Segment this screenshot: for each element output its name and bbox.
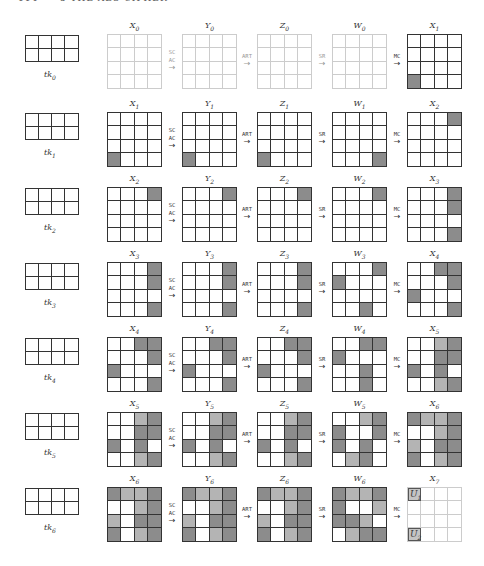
active-cell-dark — [223, 528, 236, 541]
inactive-cell — [258, 126, 271, 139]
inactive-cell — [148, 365, 161, 378]
inactive-cell — [258, 215, 271, 228]
inactive-cell — [108, 126, 121, 139]
op-label: SC — [162, 351, 182, 359]
inactive-cell — [360, 263, 373, 276]
inactive-cell — [373, 48, 386, 61]
active-cell-dark — [258, 528, 271, 541]
active-cell-light — [360, 515, 373, 528]
tweakey-label: tk1 — [44, 148, 56, 159]
inactive-cell — [346, 276, 359, 289]
op-label: SC — [162, 126, 182, 134]
inactive-cell — [258, 188, 271, 201]
inactive-cell — [258, 62, 271, 75]
inactive-cell — [121, 126, 134, 139]
inactive-cell — [258, 113, 271, 126]
tweakey-cell — [26, 502, 39, 515]
inactive-cell — [148, 215, 161, 228]
inactive-cell — [346, 153, 359, 166]
state-grid-w1 — [332, 112, 387, 167]
inactive-cell — [285, 140, 298, 153]
state-grid-z5 — [257, 412, 312, 467]
active-cell-light — [135, 413, 148, 426]
inactive-cell — [421, 48, 434, 61]
right-arrow-icon: → — [237, 213, 257, 221]
state-label: Z2 — [257, 174, 312, 185]
inactive-cell — [210, 75, 223, 88]
inactive-cell — [421, 62, 434, 75]
label-base: tk — [44, 70, 52, 79]
inactive-cell — [421, 365, 434, 378]
tweakey-cell — [65, 189, 78, 202]
state-grid-x0 — [107, 34, 162, 89]
inactive-cell — [108, 338, 121, 351]
inactive-cell — [333, 290, 346, 303]
tweakey-label: tk2 — [44, 223, 56, 234]
tweakey-grid — [25, 338, 79, 365]
inactive-cell — [421, 201, 434, 214]
active-cell-dark — [135, 515, 148, 528]
active-cell-dark — [148, 453, 161, 466]
active-cell-light — [285, 501, 298, 514]
inactive-cell — [258, 263, 271, 276]
round-row-0: tk0X0Y0Z0W0X1SCAC→ART→SR→MC→ — [0, 34, 484, 104]
tweakey-cell — [52, 277, 65, 290]
tweakey-cell — [65, 414, 78, 427]
label-subscript: 1 — [285, 103, 289, 110]
inactive-cell — [448, 126, 461, 139]
inactive-cell — [271, 215, 284, 228]
op-label: SC — [162, 48, 182, 56]
inactive-cell — [448, 528, 461, 541]
active-cell-dark — [448, 378, 461, 391]
state-label: X6 — [107, 474, 162, 485]
active-cell-dark — [148, 413, 161, 426]
inactive-cell — [408, 215, 421, 228]
inactive-cell — [408, 263, 421, 276]
tweakey-cell — [52, 352, 65, 365]
active-cell-light — [435, 453, 448, 466]
inactive-cell — [183, 113, 196, 126]
inactive-cell — [183, 501, 196, 514]
label-base: W — [353, 474, 361, 483]
inactive-cell — [421, 188, 434, 201]
inactive-cell — [148, 290, 161, 303]
right-arrow-icon: → — [162, 64, 182, 72]
inactive-cell — [448, 515, 461, 528]
active-cell-light — [196, 488, 209, 501]
inactive-cell — [210, 62, 223, 75]
inactive-cell — [271, 75, 284, 88]
inactive-cell — [435, 303, 448, 316]
inactive-cell — [223, 62, 236, 75]
inactive-cell — [108, 453, 121, 466]
inactive-cell — [121, 351, 134, 364]
active-cell-light — [183, 515, 196, 528]
label-subscript: 6 — [362, 478, 366, 485]
inactive-cell — [271, 126, 284, 139]
tweakey-label: tk5 — [44, 448, 56, 459]
inactive-cell — [271, 35, 284, 48]
inactive-cell — [210, 153, 223, 166]
active-cell-dark — [148, 528, 161, 541]
active-cell-dark — [448, 426, 461, 439]
inactive-cell — [435, 488, 448, 501]
inactive-cell — [298, 75, 311, 88]
active-cell-dark — [373, 263, 386, 276]
state-grid-x2 — [107, 187, 162, 242]
inactive-cell — [258, 35, 271, 48]
inactive-cell — [360, 188, 373, 201]
state-label: Y2 — [182, 174, 237, 185]
active-cell-dark — [373, 488, 386, 501]
state-label: Y4 — [182, 324, 237, 335]
inactive-cell — [298, 35, 311, 48]
state-grid-x7: U1U2 — [407, 487, 462, 542]
op-mixcolumns: MC→ — [387, 430, 407, 446]
inactive-cell — [223, 215, 236, 228]
inactive-cell — [333, 126, 346, 139]
state-grid-w6 — [332, 487, 387, 542]
inactive-cell — [298, 201, 311, 214]
inactive-cell — [435, 290, 448, 303]
inactive-cell — [346, 303, 359, 316]
inactive-cell — [435, 501, 448, 514]
active-cell-dark — [223, 263, 236, 276]
label-subscript: 1 — [135, 103, 139, 110]
